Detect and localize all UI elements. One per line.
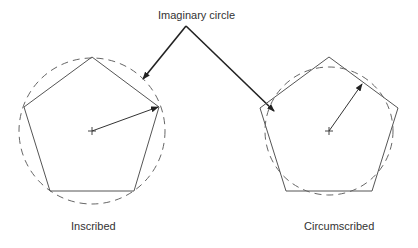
- polygon-circle-diagram: [0, 0, 418, 248]
- circumscribed-pentagon: [260, 57, 398, 191]
- callout-arrow-right: [186, 26, 274, 111]
- callout-arrows: [143, 26, 274, 111]
- imaginary-circle-label: Imaginary circle: [158, 9, 235, 21]
- inscribed-figure: [19, 57, 165, 204]
- inscribed-pentagon: [24, 57, 159, 191]
- radius-arrow: [92, 107, 158, 131]
- inscribed-caption: Inscribed: [71, 220, 116, 232]
- circumscribed-caption: Circumscribed: [304, 220, 374, 232]
- circumscribed-figure: [260, 57, 398, 195]
- callout-arrow-left: [143, 26, 186, 79]
- radius-arrow: [329, 84, 362, 131]
